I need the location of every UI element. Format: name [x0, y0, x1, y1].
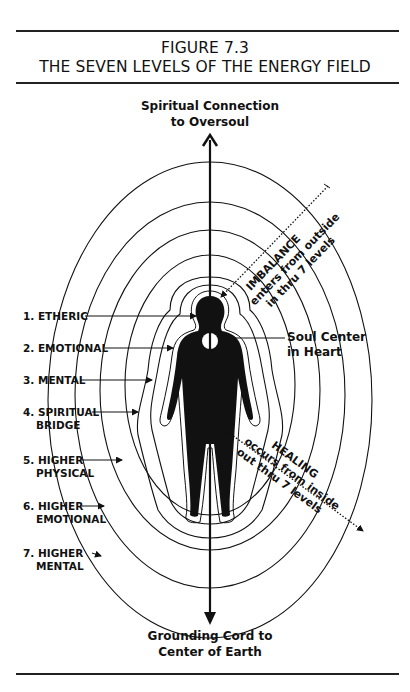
down-arrow-head	[204, 612, 216, 625]
grounding-cord-label: Grounding Cord to Center of Earth	[100, 628, 320, 660]
level-6-label: 6. HIGHEREMOTIONAL	[23, 500, 106, 526]
level-5-label: 5. HIGHERPHYSICAL	[23, 454, 94, 480]
level-2-label: 2. EMOTIONAL	[23, 342, 108, 355]
level-1-label: 1. ETHERIC	[23, 310, 88, 323]
level-7-label: 7. HIGHERMENTAL	[23, 547, 84, 573]
bottom-rule	[16, 673, 399, 675]
soul-center-label: Soul Center in Heart	[287, 330, 366, 360]
level-4-label: 4. SPIRITUALBRIDGE	[23, 406, 99, 432]
level-3-label: 3. MENTAL	[23, 374, 86, 387]
